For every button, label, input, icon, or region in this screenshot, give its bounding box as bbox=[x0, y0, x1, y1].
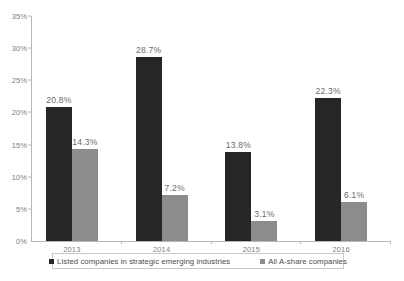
x-axis-tick-mark bbox=[211, 241, 212, 244]
bar-value-label: 28.7% bbox=[136, 45, 161, 55]
x-axis-tick-mark bbox=[300, 241, 301, 244]
bar-2013-series-1[interactable]: 14.3% bbox=[72, 149, 98, 241]
plot-area: 20.8%14.3%28.7%7.2%13.8%3.1%22.3%6.1% bbox=[31, 16, 390, 241]
bar-2014-series-1[interactable]: 7.2% bbox=[162, 195, 188, 241]
bar-group: 28.7%7.2% bbox=[136, 16, 188, 241]
bar-2013-series-0[interactable]: 20.8% bbox=[46, 107, 72, 241]
bar-2014-series-0[interactable]: 28.7% bbox=[136, 57, 162, 242]
bar-group: 13.8%3.1% bbox=[225, 16, 277, 241]
bar-chart: 0%5%10%15%20%25%30%35% 20.8%14.3%28.7%7.… bbox=[0, 0, 404, 281]
bar-value-label: 22.3% bbox=[316, 86, 341, 96]
legend-item-1[interactable]: All A-share companies bbox=[260, 257, 347, 266]
legend-swatch-icon bbox=[260, 259, 265, 264]
legend-label: Listed companies in strategic emerging i… bbox=[57, 257, 230, 266]
chart-legend: Listed companies in strategic emerging i… bbox=[52, 253, 344, 269]
legend-label: All A-share companies bbox=[268, 257, 347, 266]
bar-group: 22.3%6.1% bbox=[315, 16, 367, 241]
bar-value-label: 6.1% bbox=[344, 190, 364, 200]
y-axis-tick-label: 0% bbox=[0, 237, 32, 246]
bar-value-label: 14.3% bbox=[72, 137, 97, 147]
bar-2015-series-0[interactable]: 13.8% bbox=[225, 152, 251, 241]
bar-2016-series-0[interactable]: 22.3% bbox=[315, 98, 341, 241]
legend-swatch-icon bbox=[49, 259, 54, 264]
legend-item-0[interactable]: Listed companies in strategic emerging i… bbox=[49, 257, 230, 266]
x-axis-tick-mark bbox=[390, 241, 391, 244]
bar-2015-series-1[interactable]: 3.1% bbox=[251, 221, 277, 241]
bar-value-label: 20.8% bbox=[46, 95, 71, 105]
bar-2016-series-1[interactable]: 6.1% bbox=[341, 202, 367, 241]
bar-value-label: 13.8% bbox=[226, 140, 251, 150]
bar-value-label: 3.1% bbox=[254, 209, 274, 219]
bar-value-label: 7.2% bbox=[165, 183, 185, 193]
bar-group: 20.8%14.3% bbox=[46, 16, 98, 241]
x-axis-tick-mark bbox=[121, 241, 122, 244]
